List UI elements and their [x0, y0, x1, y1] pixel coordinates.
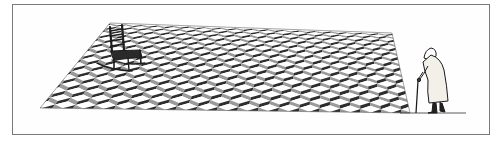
floor-tile-left — [8, 97, 18, 104]
floor-tile-left — [62, 59, 71, 65]
floor-tile-right — [395, 37, 403, 40]
floor-tile-left — [267, 115, 277, 122]
floor-tile-top — [226, 111, 247, 118]
floor-tile-top — [351, 112, 372, 119]
floor-tile-left — [58, 53, 67, 59]
floor-tile-left — [288, 115, 298, 122]
floor-tile-right — [340, 116, 350, 123]
floor-tile-left — [83, 26, 91, 30]
floor-tile-right — [86, 112, 101, 119]
floor-tile-left — [246, 114, 256, 121]
floor-tile-right — [31, 90, 47, 97]
floor-tile-top — [205, 110, 226, 117]
cane — [416, 81, 418, 113]
floor-tile-left — [225, 114, 235, 121]
floor-tile-top — [85, 25, 101, 28]
floor-tile-top — [74, 27, 90, 31]
floor-tile-top — [164, 110, 185, 117]
floor-tile-right — [128, 113, 142, 120]
floor-tile-top — [39, 108, 60, 115]
floor-tile-top — [122, 109, 143, 116]
floor-tile-right — [43, 77, 58, 83]
floor-tile-left — [76, 33, 84, 38]
floor-tile-right — [82, 34, 94, 38]
floor-tile-top — [247, 111, 268, 118]
floor-tile-right — [192, 114, 205, 121]
floor-tile-right — [60, 48, 73, 53]
floor-tile-top — [23, 80, 42, 87]
floor-tile-right — [396, 44, 404, 48]
floor-tile-right — [70, 38, 83, 43]
floor-tile-left — [94, 23, 102, 26]
floor-tile-left — [0, 111, 5, 118]
floor-tile-top — [57, 45, 74, 50]
floor-tile-right — [14, 97, 30, 104]
floor-tile-top — [330, 112, 351, 119]
floor-tile-left — [24, 90, 34, 97]
floor-tile-left — [44, 58, 53, 64]
floor-tile-left — [64, 37, 72, 42]
floor-tile-left — [162, 113, 172, 120]
floor-tile-left — [32, 70, 41, 77]
floor-tile-top — [27, 87, 47, 94]
floor-tile-top — [392, 113, 413, 120]
floor-tile-left — [309, 115, 319, 122]
elderly-woman — [417, 48, 448, 113]
floor-tile-right — [298, 115, 309, 122]
floor-tile-top — [35, 67, 53, 73]
floor-tile-right — [85, 23, 95, 25]
floor-tile-right — [44, 112, 60, 119]
floor-tile-left — [351, 116, 362, 123]
floor-tile-top — [101, 109, 122, 116]
floor-tile-left — [51, 71, 60, 77]
floor-tile-right — [277, 115, 289, 122]
floor-tile-right — [406, 84, 415, 90]
floor-tile-right — [54, 65, 68, 71]
floor-tile-left — [28, 97, 38, 104]
floor-tile-left — [204, 114, 214, 121]
floor-tile-top — [371, 113, 392, 120]
floor-tile-left — [68, 42, 76, 47]
floor-tile-left — [392, 116, 404, 123]
floor-tile-right — [107, 113, 122, 120]
floor-tile-top — [81, 109, 102, 116]
floor-tile-top — [11, 94, 31, 101]
floor-tile-top — [50, 62, 68, 68]
floor-tile-top — [14, 101, 34, 108]
floor-tile-left — [330, 115, 341, 122]
floor-tile-top — [78, 31, 94, 35]
floor-tile-right — [213, 114, 226, 121]
floor-tile-right — [319, 115, 330, 122]
floor-tile-left — [54, 47, 63, 53]
floor-tile-right — [27, 84, 43, 91]
floor-tile-left — [141, 113, 151, 120]
floor-tile-right — [401, 62, 410, 67]
floor-tile-right — [39, 71, 54, 77]
floor-tile-left — [40, 84, 50, 91]
floor-tile-top — [70, 40, 87, 45]
floor-tile-right — [150, 113, 164, 120]
floor-tile-left — [72, 29, 80, 33]
floor-tile-top — [267, 111, 288, 118]
floor-tile-right — [1, 111, 18, 118]
floor-tile-right — [361, 116, 371, 123]
floor-tile-left — [36, 77, 45, 84]
floor-tile-right — [74, 43, 87, 48]
floor-tile-top — [184, 110, 205, 117]
floor-tile-right — [403, 73, 412, 79]
floor-tile-left — [99, 112, 109, 119]
floor-tile-top — [60, 108, 81, 115]
floor-tile-right — [64, 53, 78, 58]
floor-tile-top — [143, 110, 164, 117]
floor-tile-top — [60, 50, 77, 56]
floor-tile-right — [18, 104, 34, 111]
floor-tile-left — [15, 111, 25, 118]
floor-tile-right — [403, 116, 413, 123]
floor-tile-top — [0, 108, 18, 115]
floor-tile-right — [171, 113, 185, 120]
floor-tile-left — [80, 38, 88, 43]
floor-tile-left — [36, 112, 46, 119]
floor-tile-right — [398, 52, 406, 57]
floor-tile-top — [288, 112, 309, 119]
floor-tile-top — [39, 74, 58, 80]
